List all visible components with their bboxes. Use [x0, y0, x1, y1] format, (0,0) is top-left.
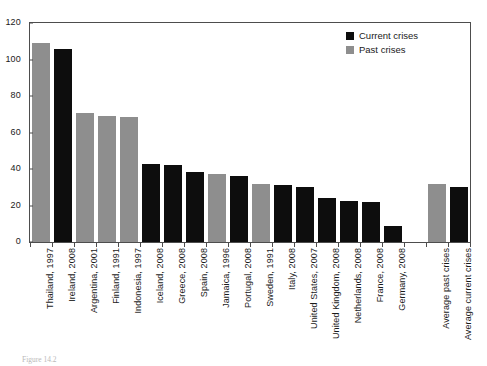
y-axis-tick-label: 20: [11, 200, 21, 210]
x-axis-tick-label: Jamaica, 1996: [221, 187, 231, 248]
y-axis-tick-label: 100: [5, 54, 21, 64]
x-axis-tick-mark: [30, 243, 31, 247]
x-axis-tick-mark: [250, 243, 251, 247]
x-axis-tick-mark: [206, 243, 207, 247]
chart-legend: Current crises Past crises: [346, 30, 418, 58]
y-axis-tick-mark: [29, 23, 33, 24]
legend-label-past: Past crises: [359, 44, 405, 55]
x-axis-tick-label: Sweden, 1991: [265, 188, 275, 248]
x-axis-tick-mark: [140, 243, 141, 247]
x-axis-tick-label: Argentina, 2001: [89, 182, 99, 248]
x-axis-tick-mark: [228, 243, 229, 247]
y-axis: 020406080100120: [0, 22, 26, 243]
y-axis-tick-label: 0: [16, 236, 21, 246]
x-axis-tick-mark: [360, 243, 361, 247]
x-axis-tick-label: Average past crises: [441, 166, 451, 248]
y-axis-tick-label: 120: [5, 17, 21, 27]
x-axis-tick-label: Thailand, 1997: [45, 186, 55, 248]
x-axis-tick-label: Finland, 1991: [111, 191, 121, 248]
x-axis-tick-mark: [162, 243, 163, 247]
x-axis-tick-label: United Kingdom, 2008: [331, 156, 341, 248]
x-axis-tick-mark: [448, 243, 449, 247]
legend-swatch-past-icon: [346, 46, 354, 54]
y-axis-tick-label: 80: [11, 90, 21, 100]
x-axis-tick-mark: [74, 243, 75, 247]
x-axis-tick-label: Ireland, 2008: [67, 193, 77, 248]
y-axis-tick-label: 40: [11, 163, 21, 173]
x-axis-tick-label: United States, 2007: [309, 166, 319, 248]
x-axis-tick-label: Greece, 2008: [177, 191, 187, 248]
y-axis-tick-mark: [29, 132, 33, 133]
x-axis-tick-mark: [470, 243, 471, 247]
x-axis-tick-label: Netherlands, 2008: [353, 172, 363, 248]
x-axis-tick-mark: [118, 243, 119, 247]
legend-item-current: Current crises: [346, 30, 418, 41]
legend-label-current: Current crises: [359, 30, 418, 41]
x-axis-tick-mark: [382, 243, 383, 247]
x-axis-tick-label: Spain, 2008: [199, 198, 209, 248]
y-axis-tick-mark: [29, 205, 33, 206]
x-axis-tick-mark: [316, 243, 317, 247]
x-axis-tick-mark: [426, 243, 427, 247]
x-axis-tick-label: France, 2008: [375, 193, 385, 248]
legend-item-past: Past crises: [346, 44, 418, 55]
x-axis-tick-label: Italy, 2008: [287, 205, 297, 248]
figure-container: 020406080100120 Thailand, 1997Ireland, 2…: [0, 0, 487, 366]
x-axis-tick-mark: [96, 243, 97, 247]
x-axis-tick-mark: [294, 243, 295, 247]
x-axis-tick-mark: [272, 243, 273, 247]
y-axis-tick-label: 60: [11, 127, 21, 137]
x-axis-tick-label: Average current crises: [463, 155, 473, 248]
x-axis-tick-mark: [52, 243, 53, 247]
x-axis-tick-mark: [404, 243, 405, 247]
y-axis-tick-mark: [29, 59, 33, 60]
y-axis-tick-mark: [29, 169, 33, 170]
legend-swatch-current-icon: [346, 32, 354, 40]
x-axis-tick-mark: [338, 243, 339, 247]
x-axis-tick-label: Iceland, 2008: [155, 192, 165, 248]
figure-caption: Figure 14.2: [22, 355, 142, 366]
y-axis-tick-mark: [29, 96, 33, 97]
x-axis: Thailand, 1997Ireland, 2008Argentina, 20…: [30, 248, 470, 348]
x-axis-tick-label: Portugal, 2008: [243, 187, 253, 248]
x-axis-tick-label: Germany, 2008: [397, 184, 407, 248]
x-axis-tick-mark: [184, 243, 185, 247]
x-axis-tick-label: Indonesia, 1997: [133, 181, 143, 248]
